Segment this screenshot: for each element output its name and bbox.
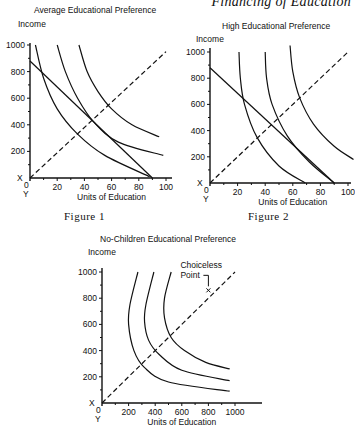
45-degree-line — [102, 272, 235, 403]
y-tick-label: 800 — [11, 67, 25, 77]
x-tick-label: 100 — [159, 182, 173, 192]
y-tick-label: 400 — [11, 120, 25, 130]
y-marker: Y — [23, 189, 29, 199]
indifference-curve-3 — [164, 272, 230, 369]
chart-3: 20040060080010002004006008001000X0YUnits… — [78, 260, 262, 427]
annotation-label: Point — [180, 270, 200, 280]
chart-1: 204060801002004006008001000X0YUnits of E… — [6, 40, 173, 202]
x-marker: X — [197, 178, 203, 188]
y-tick-label: 800 — [191, 73, 205, 83]
y-tick-label: 800 — [83, 293, 97, 303]
chart-2: 204060801002004006008001000X0YUnits of E… — [186, 45, 355, 207]
y-tick-label: 1000 — [78, 267, 97, 277]
x-tick-label: 60 — [288, 187, 298, 197]
indifference-curve-3 — [79, 45, 159, 137]
y-tick-label: 200 — [83, 372, 97, 382]
y-marker: Y — [203, 194, 209, 204]
charts-canvas: 204060801002004006008001000X0YUnits of E… — [0, 0, 355, 430]
x-marker: X — [89, 398, 95, 408]
annotation-label: Choiceless — [180, 260, 222, 270]
y-tick-label: 200 — [11, 146, 25, 156]
x-tick-label: 100 — [341, 187, 355, 197]
x-tick-label: 60 — [107, 182, 117, 192]
y-marker: Y — [95, 414, 101, 424]
indifference-curve-2 — [57, 45, 163, 155]
x-tick-label: 800 — [201, 407, 215, 417]
indifference-curve-1 — [128, 272, 229, 391]
45-degree-line — [210, 52, 348, 183]
x-tick-label: 400 — [148, 407, 162, 417]
x-axis-label: Units of Education — [77, 192, 146, 202]
x-tick-label: 600 — [175, 407, 189, 417]
y-tick-label: 400 — [191, 126, 205, 136]
x-tick-label: 200 — [122, 407, 136, 417]
x-tick-label: 1000 — [226, 407, 245, 417]
indifference-curve-2 — [144, 272, 229, 381]
y-tick-label: 600 — [83, 319, 97, 329]
x-tick-label: 80 — [134, 182, 144, 192]
indifference-curve-1 — [239, 52, 305, 183]
x-axis-label: Units of Education — [147, 417, 216, 427]
y-tick-label: 400 — [83, 346, 97, 356]
x-tick-label: 40 — [260, 187, 270, 197]
x-marker: X — [17, 173, 23, 183]
y-tick-label: 600 — [191, 99, 205, 109]
y-tick-label: 1000 — [186, 47, 205, 57]
indifference-curve-3 — [290, 45, 353, 159]
x-tick-label: 20 — [52, 182, 62, 192]
x-tick-label: 20 — [233, 187, 243, 197]
x-axis-label: Units of Education — [258, 197, 327, 207]
x-tick-label: 80 — [316, 187, 326, 197]
choiceless-point-marker — [206, 288, 210, 292]
indifference-curve-1 — [35, 45, 149, 177]
x-tick-label: 40 — [80, 182, 90, 192]
y-tick-label: 600 — [11, 93, 25, 103]
y-tick-label: 200 — [191, 152, 205, 162]
45-degree-line — [30, 52, 166, 178]
y-tick-label: 1000 — [6, 40, 25, 50]
